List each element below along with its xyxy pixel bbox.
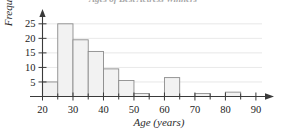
- y-tick-label: 15: [25, 47, 36, 58]
- x-tick-label: 50: [129, 104, 140, 115]
- x-tick-label: 60: [159, 104, 170, 115]
- x-tick-label: 20: [37, 104, 48, 115]
- histogram-bar: [88, 51, 103, 96]
- y-tick-label: 25: [25, 18, 36, 29]
- histogram-bar: [119, 81, 134, 97]
- histogram-bar: [164, 78, 179, 97]
- histogram-bar: [225, 92, 240, 96]
- y-tick-label: 10: [25, 62, 36, 73]
- histogram-bar: [58, 24, 73, 97]
- x-tick-label: 30: [68, 104, 79, 115]
- histogram-bar: [73, 40, 88, 97]
- x-tick-label: 90: [251, 104, 262, 115]
- x-tick-label: 70: [190, 104, 201, 115]
- plot-area: 2030405060708090 510152025: [0, 0, 286, 135]
- x-tick-label: 80: [220, 104, 231, 115]
- y-ticks-group: 510152025: [25, 18, 47, 87]
- y-tick-label: 20: [25, 33, 36, 44]
- histogram-bar: [43, 82, 58, 97]
- histogram-bar: [103, 69, 118, 97]
- histogram-figure: Ages of Best Actress Winners Frequency A…: [0, 0, 286, 135]
- x-axis-arrow-icon: [265, 93, 274, 99]
- x-tick-label: 40: [98, 104, 109, 115]
- histogram-svg: 2030405060708090 510152025: [0, 0, 286, 135]
- y-axis-arrow-icon: [39, 9, 45, 17]
- y-tick-label: 5: [30, 77, 35, 88]
- bars-group: [43, 24, 241, 97]
